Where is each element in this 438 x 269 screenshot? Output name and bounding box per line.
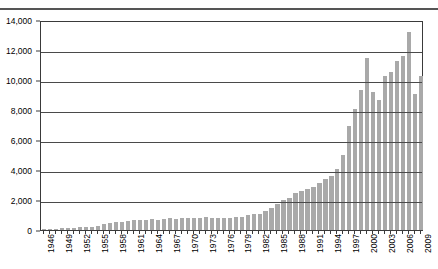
x-axis-tick-label: 1991 [316, 234, 325, 253]
x-axis-tick-label: 1985 [280, 234, 289, 253]
x-axis-tick-mark [55, 231, 56, 234]
x-axis-tick-mark [187, 231, 188, 234]
x-axis-tick-mark [234, 231, 235, 234]
x-axis: 1946194919521955195819611964196719701973… [0, 0, 438, 269]
x-axis-tick-mark [67, 231, 68, 234]
x-axis-tick-mark [366, 231, 367, 234]
x-axis-tick-mark [336, 231, 337, 234]
x-axis-tick-mark [384, 231, 385, 234]
x-axis-tick-mark [372, 231, 373, 234]
x-axis-tick-mark [109, 231, 110, 234]
x-axis-tick-mark [229, 231, 230, 234]
x-axis-tick-mark [163, 231, 164, 234]
x-axis-tick-mark [282, 231, 283, 234]
x-axis-tick-mark [270, 231, 271, 234]
x-axis-tick-label: 1961 [137, 234, 146, 253]
x-axis-tick-label: 2003 [388, 234, 397, 253]
x-axis-tick-mark [61, 231, 62, 234]
x-axis-tick-mark [240, 231, 241, 234]
x-axis-tick-mark [79, 231, 80, 234]
x-axis-tick-mark [402, 231, 403, 234]
x-axis-tick-mark [121, 231, 122, 234]
x-axis-tick-mark [199, 231, 200, 234]
x-axis-tick-mark [330, 231, 331, 234]
x-axis-tick-mark [318, 231, 319, 234]
x-axis-tick-mark [193, 231, 194, 234]
x-axis-tick-label: 1967 [173, 234, 182, 253]
x-axis-tick-mark [139, 231, 140, 234]
x-axis-tick-mark [73, 231, 74, 234]
x-axis-tick-label: 1973 [209, 234, 218, 253]
x-axis-tick-mark [288, 231, 289, 234]
x-axis-tick-mark [408, 231, 409, 234]
x-axis-tick-mark [294, 231, 295, 234]
x-axis-tick-mark [175, 231, 176, 234]
x-axis-tick-mark [97, 231, 98, 234]
x-axis-tick-label: 1949 [65, 234, 74, 253]
x-axis-tick-label: 1964 [155, 234, 164, 253]
x-axis-tick-mark [390, 231, 391, 234]
x-axis-tick-label: 1955 [101, 234, 110, 253]
x-axis-tick-mark [264, 231, 265, 234]
x-axis-tick-mark [354, 231, 355, 234]
x-axis-tick-mark [43, 231, 44, 234]
x-axis-tick-mark [127, 231, 128, 234]
x-axis-tick-mark [306, 231, 307, 234]
x-axis-tick-mark [157, 231, 158, 234]
x-axis-tick-mark [223, 231, 224, 234]
x-axis-tick-mark [414, 231, 415, 234]
x-axis-tick-label: 2009 [424, 234, 433, 253]
x-axis-tick-mark [300, 231, 301, 234]
x-axis-tick-mark [360, 231, 361, 234]
x-axis-tick-label: 1952 [83, 234, 92, 253]
x-axis-tick-label: 2006 [406, 234, 415, 253]
x-axis-tick-mark [169, 231, 170, 234]
x-axis-tick-label: 1994 [334, 234, 343, 253]
x-axis-tick-mark [49, 231, 50, 234]
x-axis-tick-mark [420, 231, 421, 234]
x-axis-tick-mark [378, 231, 379, 234]
x-axis-tick-mark [91, 231, 92, 234]
bar-chart: 02,0004,0006,0008,00010,00012,00014,000 … [0, 0, 438, 269]
x-axis-tick-mark [211, 231, 212, 234]
x-axis-tick-mark [342, 231, 343, 234]
x-axis-tick-label: 1976 [227, 234, 236, 253]
x-axis-tick-mark [133, 231, 134, 234]
x-axis-tick-label: 1988 [298, 234, 307, 253]
x-axis-tick-label: 1970 [191, 234, 200, 253]
x-axis-tick-mark [246, 231, 247, 234]
x-axis-tick-label: 1946 [47, 234, 56, 253]
x-axis-tick-mark [348, 231, 349, 234]
x-axis-tick-mark [85, 231, 86, 234]
x-axis-tick-mark [103, 231, 104, 234]
x-axis-tick-label: 1979 [244, 234, 253, 253]
x-axis-tick-label: 2000 [370, 234, 379, 253]
x-axis-tick-mark [312, 231, 313, 234]
x-axis-tick-mark [151, 231, 152, 234]
x-axis-tick-mark [258, 231, 259, 234]
x-axis-tick-mark [145, 231, 146, 234]
x-axis-tick-mark [252, 231, 253, 234]
x-axis-tick-mark [324, 231, 325, 234]
x-axis-tick-mark [115, 231, 116, 234]
x-axis-tick-mark [396, 231, 397, 234]
x-axis-tick-mark [181, 231, 182, 234]
x-axis-tick-mark [205, 231, 206, 234]
x-axis-tick-mark [276, 231, 277, 234]
x-axis-tick-mark [217, 231, 218, 234]
x-axis-tick-label: 1997 [352, 234, 361, 253]
x-axis-tick-label: 1958 [119, 234, 128, 253]
x-axis-tick-label: 1982 [262, 234, 271, 253]
